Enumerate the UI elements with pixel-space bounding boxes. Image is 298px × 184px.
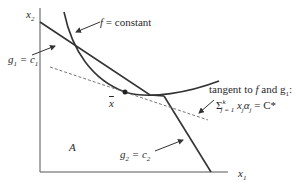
tangent-label: tangent to f and g1: (209, 83, 292, 95)
g1-constraint-line (40, 22, 164, 96)
tangent-equation: Σkj = 1 xjαj = C* (216, 99, 276, 111)
optimum-point (123, 90, 128, 95)
xbar-label: x (109, 97, 114, 109)
g2-label-arrow (155, 140, 183, 151)
g1-label: g1 = c1 (8, 53, 38, 65)
g2-label: g2 = c2 (120, 148, 150, 160)
y-axis-label: x2 (26, 8, 34, 20)
tangent-label-arrow (199, 100, 214, 113)
f-label-arrow (76, 22, 100, 32)
x-axis-label: x1 (238, 167, 246, 179)
f-constant-label: f = constant (100, 16, 151, 28)
region-label: A (69, 141, 76, 153)
